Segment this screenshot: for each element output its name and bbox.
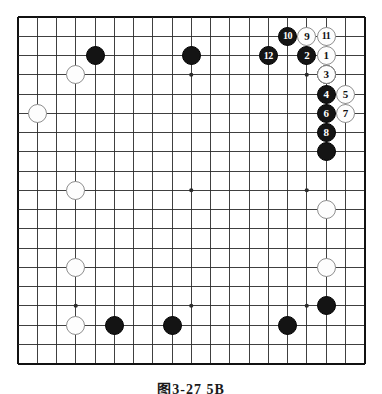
stone-white[interactable] bbox=[66, 258, 85, 277]
stone-move-number: 8 bbox=[324, 127, 329, 138]
stone-black[interactable] bbox=[278, 316, 297, 335]
go-board[interactable]: 109111221345678 bbox=[15, 14, 367, 366]
numbered-stone-6[interactable]: 6 bbox=[317, 104, 336, 123]
stone-move-number: 1 bbox=[324, 50, 329, 61]
numbered-stone-10[interactable]: 10 bbox=[278, 27, 297, 46]
star-point bbox=[305, 304, 309, 308]
stone-white[interactable] bbox=[66, 181, 85, 200]
stone-white[interactable] bbox=[317, 258, 336, 277]
numbered-stone-12[interactable]: 12 bbox=[259, 46, 278, 65]
numbered-stone-5[interactable]: 5 bbox=[336, 85, 355, 104]
stone-white[interactable] bbox=[317, 200, 336, 219]
stone-black[interactable] bbox=[105, 316, 124, 335]
numbered-stone-9[interactable]: 9 bbox=[297, 27, 316, 46]
numbered-stone-4[interactable]: 4 bbox=[317, 85, 336, 104]
stone-move-number: 3 bbox=[324, 69, 329, 80]
numbered-stone-1[interactable]: 1 bbox=[317, 46, 336, 65]
star-point bbox=[189, 304, 193, 308]
star-point bbox=[189, 73, 193, 77]
stone-move-number: 4 bbox=[324, 89, 329, 100]
numbered-stone-7[interactable]: 7 bbox=[336, 104, 355, 123]
stone-black[interactable] bbox=[317, 142, 336, 161]
stone-move-number: 2 bbox=[304, 50, 309, 61]
stone-move-number: 12 bbox=[264, 51, 273, 61]
stone-black[interactable] bbox=[86, 46, 105, 65]
stone-move-number: 9 bbox=[304, 31, 309, 42]
numbered-stone-8[interactable]: 8 bbox=[317, 123, 336, 142]
figure-caption: 图3-27 5B bbox=[0, 378, 382, 394]
stone-move-number: 6 bbox=[324, 108, 329, 119]
numbered-stone-11[interactable]: 11 bbox=[317, 27, 336, 46]
star-point bbox=[74, 304, 78, 308]
stone-black[interactable] bbox=[163, 316, 182, 335]
stone-move-number: 5 bbox=[343, 89, 348, 100]
stone-move-number: 10 bbox=[283, 31, 292, 41]
numbered-stone-3[interactable]: 3 bbox=[317, 65, 336, 84]
stone-move-number: 11 bbox=[322, 31, 330, 41]
star-point bbox=[189, 188, 193, 192]
star-point bbox=[305, 73, 309, 77]
go-diagram-page: 109111221345678 图3-27 5B bbox=[0, 0, 382, 394]
stone-white[interactable] bbox=[66, 316, 85, 335]
stone-black[interactable] bbox=[182, 46, 201, 65]
star-point bbox=[305, 188, 309, 192]
stone-black[interactable] bbox=[317, 296, 336, 315]
stone-move-number: 7 bbox=[343, 108, 348, 119]
stone-white[interactable] bbox=[28, 104, 47, 123]
